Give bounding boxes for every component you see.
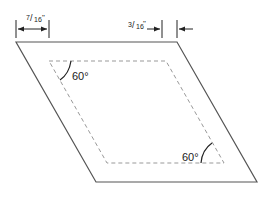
left-dimension-denominator: 16 xyxy=(34,16,42,23)
left-dimension: 7 / 16 " xyxy=(16,13,49,38)
right-dimension: 3 / 16 " xyxy=(128,19,193,38)
left-dimension-slash: / xyxy=(30,13,33,23)
top-left-angle-arc xyxy=(60,61,71,80)
left-dimension-unit: " xyxy=(42,13,45,22)
bottom-right-angle-label: 60° xyxy=(182,151,199,163)
right-dimension-slash: / xyxy=(132,20,135,30)
bottom-right-angle-arc xyxy=(201,143,212,163)
outer-parallelogram xyxy=(16,42,257,182)
parallelogram-diagram: 7 / 16 " 3 / 16 " 60° 60° xyxy=(0,0,272,197)
right-dimension-unit: " xyxy=(143,19,146,28)
top-left-angle-label: 60° xyxy=(72,70,89,82)
